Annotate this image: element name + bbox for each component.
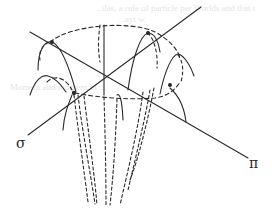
pi-label: π [249,156,258,170]
dashed-stem-7 [128,90,150,190]
center-dashed-vertical [99,25,101,62]
intersection-point-top-right [147,32,150,35]
dashed-stem-1 [74,95,88,202]
intersection-point-left [72,91,75,94]
intersection-point-right [169,84,172,87]
dashed-stem-5 [110,99,117,205]
upper-dashed-rim [50,25,180,58]
sigma-label: σ [16,136,26,150]
arc-right-dashed [178,55,183,82]
intersection-point-top-left [51,41,54,44]
arc-upper-left-dashed [40,42,52,60]
lower-dashed-rim [75,82,180,99]
arc-right-lower [170,88,186,122]
arc-right [160,54,194,94]
dashed-stem-4 [104,97,106,206]
arc-left-lower-tail [63,95,72,130]
arc-upper-left [38,42,76,92]
geometric-diagram [0,0,276,210]
pi-line [30,32,248,158]
